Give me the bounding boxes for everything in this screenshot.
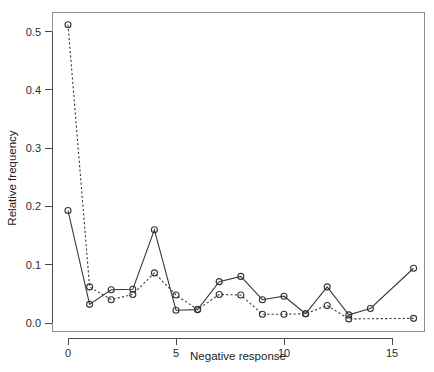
y-tick-label: 0.1 — [26, 259, 41, 271]
x-tick-label: 5 — [173, 347, 179, 359]
x-tick-label: 15 — [386, 347, 398, 359]
data-series — [68, 25, 414, 319]
plot-frame — [52, 12, 424, 331]
y-tick-label: 0.4 — [26, 84, 41, 96]
series-line-fitted — [68, 25, 414, 319]
x-tick-label: 0 — [65, 347, 71, 359]
x-axis-title: Negative response — [190, 350, 286, 362]
data-point-marker — [324, 303, 330, 309]
y-axis: 0.00.10.20.30.40.5 — [26, 26, 52, 329]
data-point-marker — [173, 292, 179, 298]
series-line-observed — [68, 211, 414, 315]
y-tick-label: 0.5 — [26, 26, 41, 38]
y-tick-label: 0.0 — [26, 317, 41, 329]
chart-figure: 0.00.10.20.30.40.5 051015 Negative respo… — [0, 0, 434, 372]
y-tick-label: 0.3 — [26, 142, 41, 154]
y-tick-label: 0.2 — [26, 200, 41, 212]
plot-area: 0.00.10.20.30.40.5 051015 Negative respo… — [0, 0, 434, 372]
y-axis-title: Relative frequency — [6, 130, 18, 225]
